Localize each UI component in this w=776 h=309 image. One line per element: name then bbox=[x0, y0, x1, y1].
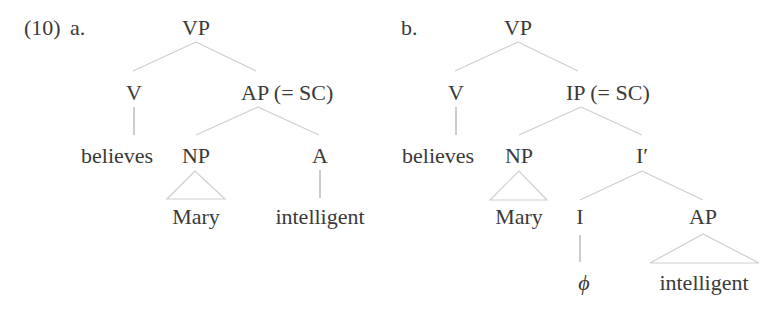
tree-a-node-np: NP bbox=[182, 143, 210, 168]
tree-b-node-ibar: I′ bbox=[636, 143, 648, 168]
tree-a-label: a. bbox=[70, 15, 85, 40]
tree-b-node-intelligent: intelligent bbox=[659, 270, 748, 295]
tree-a-edge-ap-np bbox=[196, 107, 258, 135]
tree-b-node-i: I bbox=[576, 204, 583, 229]
tree-b-edge-vp-ip bbox=[518, 42, 578, 71]
tree-a-node-intelligent: intelligent bbox=[275, 204, 364, 229]
tree-a-node-believes: believes bbox=[81, 143, 153, 168]
tree-a: a. VP V AP (= SC) believes NP A Mary int… bbox=[70, 15, 365, 229]
tree-b-edge-vp-v bbox=[455, 42, 518, 71]
tree-b: b. VP V IP (= SC) believes NP I′ Mary I … bbox=[401, 15, 759, 295]
tree-a-edge-vp-ap bbox=[196, 42, 256, 71]
tree-b-node-mary: Mary bbox=[495, 204, 543, 229]
tree-b-edge-ip-ibar bbox=[581, 107, 642, 135]
tree-b-node-believes: believes bbox=[402, 143, 474, 168]
tree-b-edge-ibar-ap bbox=[642, 171, 703, 200]
tree-b-node-phi: ϕ bbox=[578, 270, 589, 295]
tree-a-edge-ap-a bbox=[258, 107, 319, 135]
tree-a-node-vp: VP bbox=[182, 15, 210, 40]
tree-b-triangle-ap bbox=[650, 234, 759, 263]
syntax-tree-diagram: (10) a. VP V AP (= SC) believes NP A Mar… bbox=[0, 0, 776, 309]
tree-a-triangle-np bbox=[167, 171, 225, 199]
tree-a-node-v: V bbox=[126, 80, 142, 105]
tree-b-triangle-np bbox=[490, 171, 547, 200]
tree-a-node-ap: AP (= SC) bbox=[241, 80, 333, 105]
tree-b-node-v: V bbox=[448, 80, 464, 105]
tree-a-node-mary: Mary bbox=[172, 204, 220, 229]
tree-a-node-a: A bbox=[312, 143, 328, 168]
tree-b-node-ap: AP bbox=[689, 204, 717, 229]
tree-b-node-np: NP bbox=[505, 143, 533, 168]
example-number: (10) bbox=[24, 15, 61, 40]
tree-b-label: b. bbox=[401, 15, 418, 40]
tree-a-edge-vp-v bbox=[133, 42, 196, 71]
tree-b-node-ip: IP (= SC) bbox=[566, 80, 650, 105]
tree-b-node-vp: VP bbox=[504, 15, 532, 40]
tree-b-edge-ip-np bbox=[519, 107, 581, 135]
tree-b-edge-ibar-i bbox=[580, 171, 642, 200]
